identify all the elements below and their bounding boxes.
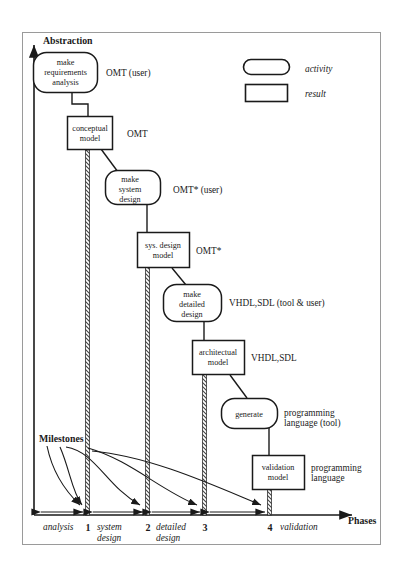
legend-result-swatch [246,85,288,102]
result-label-line: conceptual [72,124,108,133]
result-sys-design-model[interactable]: sys. design model [138,233,190,268]
activity-label-line: make [121,175,139,184]
milestones-label: Milestones [39,433,84,444]
activity-generate[interactable]: generate [222,399,278,429]
diagram-canvas: Abstraction Phases make requirements ana… [0,0,403,584]
annotation-vhdl-sdl-tool-user: VHDL,SDL (tool & user) [229,298,325,309]
annotation-programming-tool-line2: language (tool) [284,418,341,429]
phase-label-system-design-1: system [97,522,122,532]
activity-make-detailed-design[interactable]: make detailed design [164,285,222,322]
annotation-programming-line1: programming [311,463,362,473]
activity-make-system-design[interactable]: make system design [106,171,161,205]
activity-label-line: system [119,185,142,194]
result-label-line: validation [262,463,295,472]
legend-activity-swatch [244,60,290,75]
result-architectual-model[interactable]: architectual model [193,341,245,375]
result-label-line: model [80,134,101,143]
milestone-number-1: 1 [86,522,91,533]
legend-activity-label: activity [305,64,333,74]
phase-label-detailed-design-2: design [156,533,181,543]
annotation-omt-star-user: OMT* (user) [173,185,222,196]
result-label-line: architectual [199,348,238,357]
milestone-number-3: 3 [203,522,208,533]
milestone-number-2: 2 [146,522,151,533]
phase-label-detailed-design-1: detailed [156,522,186,532]
annotation-omt-user: OMT (user) [106,68,151,79]
phase-label-validation: validation [280,522,318,532]
annotation-omt-star: OMT* [196,246,222,256]
phases-axis-label: Phases [348,515,376,526]
phase-label-analysis: analysis [43,522,74,532]
activity-make-requirements-analysis[interactable]: make requirements analysis [34,53,98,93]
activity-label-line: requirements [44,68,87,77]
result-conceptual-model[interactable]: conceptual model [68,117,113,150]
activity-label-line: generate [235,410,263,419]
result-validation-model[interactable]: validation model [253,456,305,490]
annotation-omt: OMT [127,129,148,139]
milestone-number-4: 4 [268,522,273,533]
result-label-line: model [268,473,289,482]
annotation-programming-tool-line1: programming [284,408,335,418]
result-label-line: model [153,251,174,260]
activity-label-line: make [183,290,201,299]
activity-label-line: detailed [179,300,205,309]
activity-label-line: make [57,58,75,67]
annotation-programming-line2: language [311,473,345,483]
activity-label-line: design [119,195,140,204]
phase-label-system-design-2: design [97,533,122,543]
result-label-line: model [208,358,229,367]
result-label-line: sys. design [145,241,181,250]
milestone-line-4 [268,489,272,515]
milestone-line-3 [203,374,207,515]
abstraction-axis-label: Abstraction [43,35,93,46]
activity-label-line: design [181,310,202,319]
milestone-line-1 [86,150,90,515]
activity-label-line: analysis [52,78,78,87]
annotation-vhdl-sdl: VHDL,SDL [251,353,297,363]
legend-result-label: result [305,89,326,99]
